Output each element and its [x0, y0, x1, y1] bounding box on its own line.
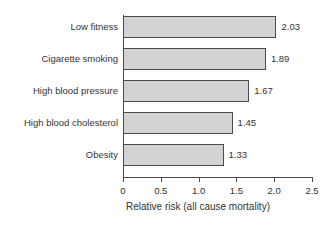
x-tick-label: 0 — [120, 185, 125, 196]
plot-area: 2.03 1.89 1.67 1.45 1.33 — [123, 16, 312, 175]
x-tick-mark — [312, 177, 313, 182]
x-tick-mark — [274, 177, 275, 182]
bar-high-blood-cholesterol — [123, 112, 233, 134]
x-tick-mark — [161, 177, 162, 182]
bar-value-label: 1.33 — [229, 149, 248, 160]
x-axis-title: Relative risk (all cause mortality) — [0, 201, 336, 213]
relative-risk-bar-chart: Low fitness Cigarette smoking High blood… — [0, 0, 336, 228]
category-label-cigarette-smoking: Cigarette smoking — [0, 53, 118, 64]
x-tick-label: 1.5 — [230, 185, 243, 196]
x-tick-label: 2.0 — [268, 185, 281, 196]
x-tick-mark — [236, 177, 237, 182]
value-axis-line — [123, 177, 313, 178]
category-label-high-blood-cholesterol: High blood cholesterol — [0, 117, 118, 128]
category-axis-labels: Low fitness Cigarette smoking High blood… — [0, 16, 118, 175]
bar-obesity — [123, 144, 224, 166]
bar-value-label: 1.45 — [238, 117, 257, 128]
bar-value-label: 2.03 — [281, 21, 300, 32]
bar-row: 1.45 — [123, 112, 312, 134]
bar-high-blood-pressure — [123, 80, 249, 102]
x-tick-mark — [199, 177, 200, 182]
bar-row: 1.67 — [123, 80, 312, 102]
bar-row: 2.03 — [123, 16, 312, 38]
category-label-low-fitness: Low fitness — [0, 21, 118, 32]
x-tick-label: 0.5 — [154, 185, 167, 196]
bar-low-fitness — [123, 16, 276, 38]
bar-row: 1.89 — [123, 48, 312, 70]
category-label-high-blood-pressure: High blood pressure — [0, 85, 118, 96]
bar-value-label: 1.89 — [271, 53, 290, 64]
x-tick-label: 1.0 — [192, 185, 205, 196]
category-axis-line — [123, 15, 124, 177]
bar-value-label: 1.67 — [254, 85, 273, 96]
x-tick-mark — [123, 177, 124, 182]
category-label-obesity: Obesity — [0, 149, 118, 160]
bar-cigarette-smoking — [123, 48, 266, 70]
bar-row: 1.33 — [123, 144, 312, 166]
x-tick-label: 2.5 — [305, 185, 318, 196]
